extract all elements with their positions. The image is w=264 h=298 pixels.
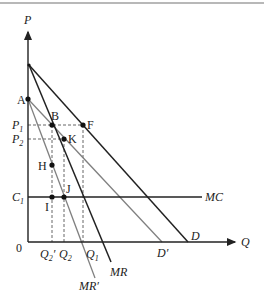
- y-axis-label: P: [23, 13, 32, 27]
- point-h: [49, 162, 54, 167]
- q1-label: Q1: [86, 247, 99, 263]
- point-a-label: A: [17, 93, 26, 107]
- point-b-label: B: [51, 109, 59, 123]
- q2-prime-label: Q2′: [40, 247, 56, 263]
- p2-label: P2: [11, 132, 23, 148]
- c1-label: C1: [12, 190, 24, 206]
- demand-prime-label: D′: [156, 246, 169, 260]
- demand-prime-curve: [28, 99, 162, 242]
- demand-curve: [29, 65, 188, 242]
- point-a: [25, 96, 30, 101]
- intercept-point: [27, 63, 30, 66]
- point-f-label: F: [87, 118, 94, 132]
- point-f: [80, 122, 85, 127]
- q2-label: Q2: [59, 247, 72, 263]
- mr-label: MR: [109, 265, 128, 279]
- point-k-label: K: [68, 132, 77, 146]
- point-k: [61, 136, 66, 141]
- mc-label: MC: [204, 190, 224, 204]
- point-h-label: H: [38, 159, 47, 173]
- x-axis-label: Q: [241, 235, 250, 249]
- point-j-label: J: [66, 182, 71, 196]
- point-b: [49, 122, 54, 127]
- point-i: [49, 194, 54, 199]
- origin-label: 0: [16, 241, 22, 255]
- demand-label: D: [190, 229, 200, 243]
- point-i-label: I: [45, 200, 49, 214]
- economics-diagram: P Q 0 P1 P2 C1 Q2′ Q2 Q1 D D′ MR MR′ MC …: [0, 0, 264, 298]
- mr-prime-label: MR′: [78, 279, 99, 293]
